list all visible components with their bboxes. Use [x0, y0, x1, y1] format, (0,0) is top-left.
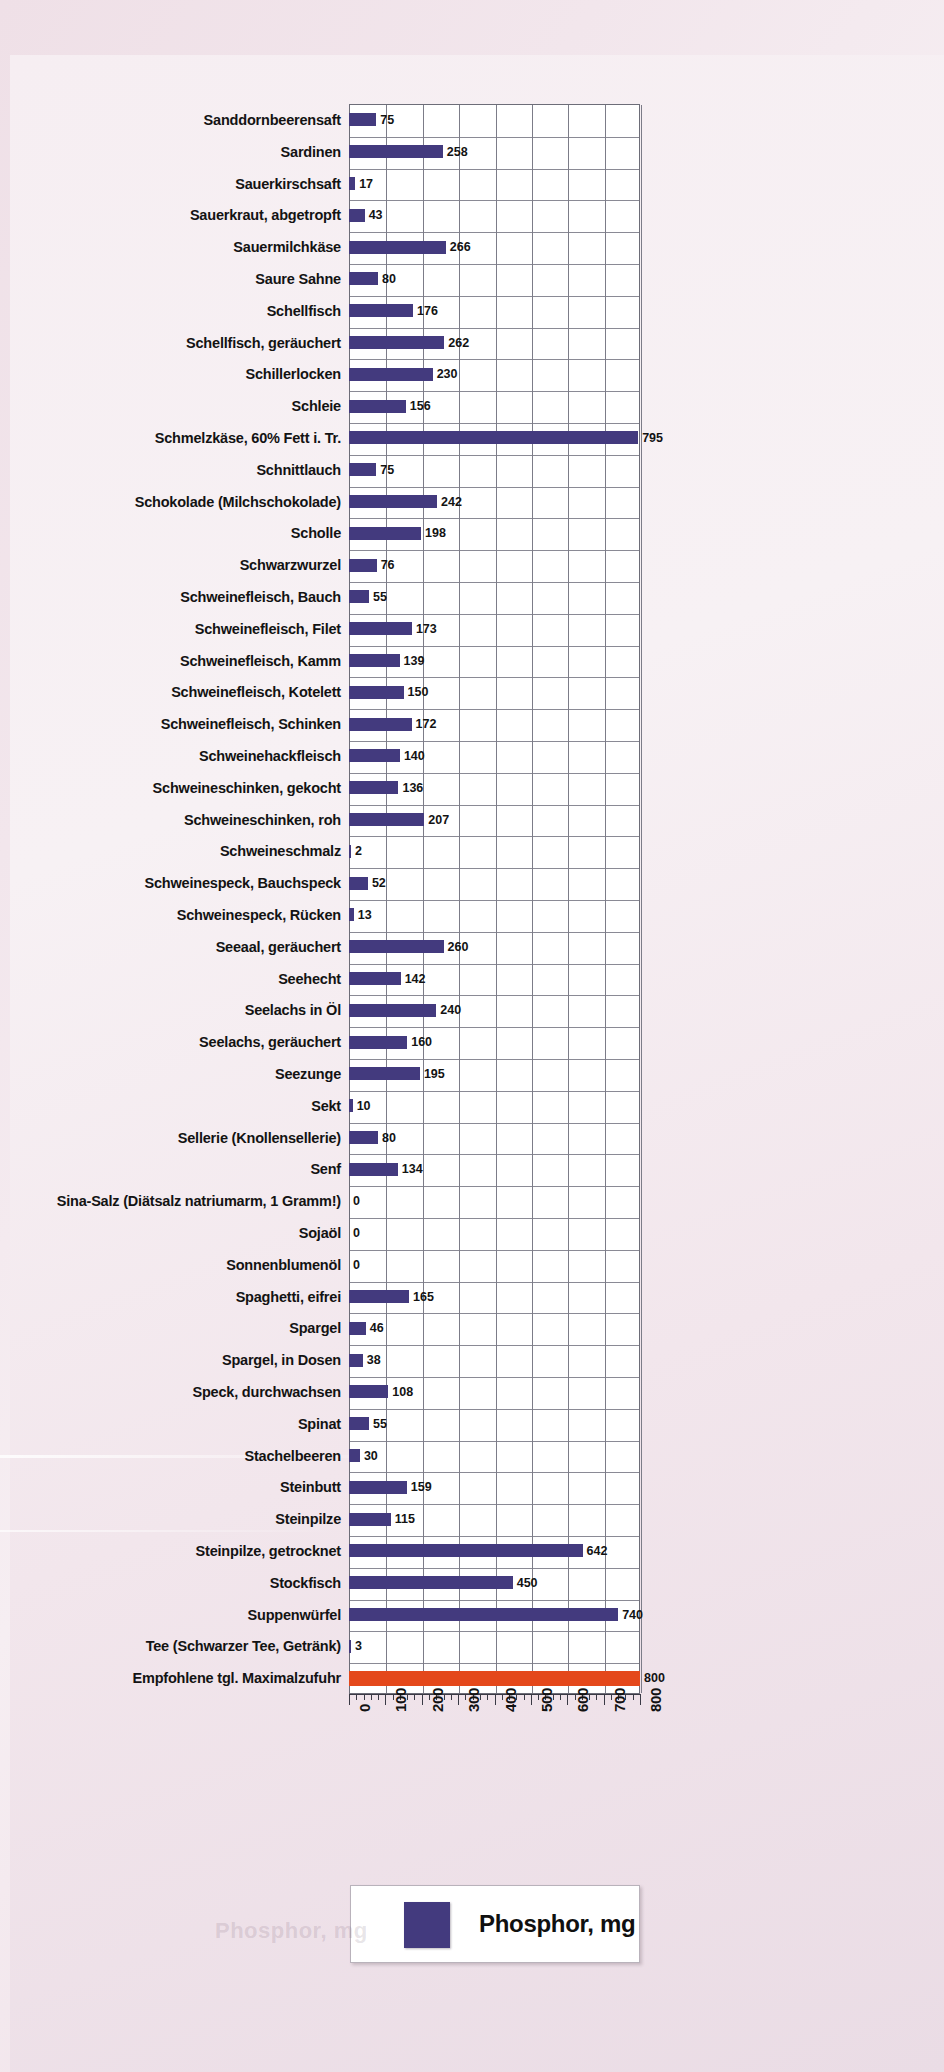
grid-line-horizontal	[350, 169, 639, 170]
data-bar	[349, 1576, 513, 1589]
bar-value-label: 198	[425, 527, 446, 540]
category-label: Seezunge	[0, 1067, 341, 1082]
bar-value-label: 52	[372, 877, 386, 890]
data-bar	[349, 781, 398, 794]
legend-label-phosphor: Phosphor, mg	[479, 1908, 635, 1940]
category-label: Scholle	[0, 526, 341, 541]
bar-value-label: 159	[411, 1481, 432, 1494]
category-label: Schellfisch	[0, 304, 341, 319]
x-axis-tick-minor	[378, 1694, 379, 1700]
data-bar	[349, 304, 413, 317]
bar-value-label: 75	[380, 114, 394, 127]
data-bar	[349, 1608, 618, 1621]
bar-value-label: 139	[404, 655, 425, 668]
grid-line-horizontal	[350, 328, 639, 329]
bar-value-label: 450	[517, 1577, 538, 1590]
category-label: Stachelbeeren	[0, 1449, 341, 1464]
x-axis-tick-minor	[356, 1694, 357, 1700]
category-label: Schleie	[0, 399, 341, 414]
grid-line-horizontal	[350, 518, 639, 519]
category-label: Sellerie (Knollensellerie)	[0, 1131, 341, 1146]
data-bar	[349, 336, 444, 349]
grid-line-horizontal	[350, 1123, 639, 1124]
x-axis-tick-major	[349, 1694, 350, 1705]
grid-line-horizontal	[350, 264, 639, 265]
data-bar	[349, 431, 638, 444]
data-bar	[349, 813, 424, 826]
legend-box: Phosphor, mg	[350, 1885, 640, 1963]
category-label: Seeaal, geräuchert	[0, 940, 341, 955]
x-axis-tick-label: 400	[502, 1688, 519, 1712]
bar-value-label: 240	[440, 1004, 461, 1017]
category-label: Seehecht	[0, 972, 341, 987]
bar-value-label: 75	[380, 464, 394, 477]
category-label: Schweinespeck, Rücken	[0, 908, 341, 923]
grid-line-vertical	[641, 105, 642, 1693]
category-label: Sardinen	[0, 145, 341, 160]
x-axis-tick-major	[640, 1694, 641, 1705]
x-axis-tick-label: 500	[538, 1688, 555, 1712]
bar-value-label: 17	[359, 178, 373, 191]
category-label: Schweinespeck, Bauchspeck	[0, 876, 341, 891]
grid-line-horizontal	[350, 137, 639, 138]
grid-line-horizontal	[350, 1600, 639, 1601]
grid-line-horizontal	[350, 805, 639, 806]
data-bar	[349, 527, 421, 540]
grid-line-horizontal	[350, 932, 639, 933]
category-label: Sekt	[0, 1099, 341, 1114]
bar-value-label: 46	[370, 1322, 384, 1335]
data-bar	[349, 1544, 583, 1557]
category-label: Schweineschinken, gekocht	[0, 781, 341, 796]
bar-value-label: 30	[364, 1450, 378, 1463]
data-bar	[349, 177, 355, 190]
category-label: Speck, durchwachsen	[0, 1385, 341, 1400]
grid-line-horizontal	[350, 1441, 639, 1442]
bar-value-label: 258	[447, 146, 468, 159]
grid-line-horizontal	[350, 964, 639, 965]
grid-line-horizontal	[350, 455, 639, 456]
data-bar	[349, 1036, 407, 1049]
grid-line-horizontal	[350, 1663, 639, 1664]
bar-value-label: 140	[404, 750, 425, 763]
x-axis-tick-minor	[487, 1694, 488, 1700]
grid-line-horizontal	[350, 1250, 639, 1251]
x-axis-tick-minor	[560, 1694, 561, 1700]
category-label: Sauerkraut, abgetropft	[0, 208, 341, 223]
category-label: Steinpilze	[0, 1512, 341, 1527]
category-label: Schweineschmalz	[0, 844, 341, 859]
bar-value-label: 176	[417, 305, 438, 318]
data-bar	[349, 272, 378, 285]
category-label: Schmelzkäse, 60% Fett i. Tr.	[0, 431, 341, 446]
bar-value-label: 800	[644, 1672, 665, 1685]
x-axis-tick-minor	[596, 1694, 597, 1700]
bar-value-label: 195	[424, 1068, 445, 1081]
x-axis-tick-minor	[364, 1694, 365, 1700]
category-label: Seelachs, geräuchert	[0, 1035, 341, 1050]
bar-value-label: 43	[369, 209, 383, 222]
bar-value-label: 76	[381, 559, 395, 572]
data-bar	[349, 495, 437, 508]
data-bar	[349, 972, 401, 985]
data-bar	[349, 1449, 360, 1462]
category-label: Schweinefleisch, Schinken	[0, 717, 341, 732]
legend-swatch-phosphor	[404, 1902, 450, 1948]
bar-value-label: 150	[408, 686, 429, 699]
grid-line-horizontal	[350, 1472, 639, 1473]
bar-value-label: 10	[357, 1100, 371, 1113]
x-axis-tick-major	[495, 1694, 496, 1705]
category-label: Sina-Salz (Diätsalz natriumarm, 1 Gramm!…	[0, 1194, 341, 1209]
data-bar	[349, 1640, 351, 1653]
bar-value-label: 80	[382, 273, 396, 286]
grid-line-horizontal	[350, 677, 639, 678]
reference-bar	[349, 1671, 640, 1686]
data-bar	[349, 1513, 391, 1526]
category-label: Schweinefleisch, Filet	[0, 622, 341, 637]
x-axis-tick-minor	[524, 1694, 525, 1700]
data-bar	[349, 718, 412, 731]
grid-line-horizontal	[350, 359, 639, 360]
grid-line-horizontal	[350, 1154, 639, 1155]
bar-value-label: 13	[358, 909, 372, 922]
grid-line-horizontal	[350, 1568, 639, 1569]
data-bar	[349, 1481, 407, 1494]
grid-line-horizontal	[350, 1218, 639, 1219]
